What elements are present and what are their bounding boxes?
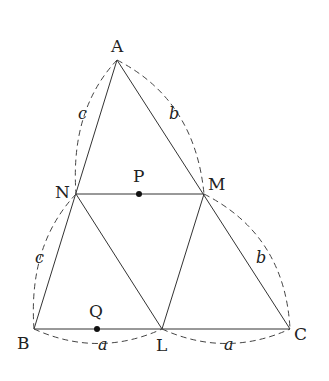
- label-Q: Q: [89, 303, 103, 320]
- segment-ML: [162, 194, 204, 329]
- triangle-diagram: A N M P B L C Q c c b b a a: [0, 0, 329, 381]
- side-label-b-lower: b: [256, 250, 266, 266]
- label-B: B: [17, 335, 30, 352]
- label-N: N: [55, 184, 70, 201]
- side-label-a-right: a: [224, 337, 234, 353]
- side-label-c-lower: c: [35, 250, 44, 266]
- diagram-canvas: [0, 0, 329, 381]
- label-A: A: [111, 38, 123, 55]
- label-C: C: [294, 326, 307, 343]
- side-label-a-left: a: [98, 337, 108, 353]
- point-P-dot: [136, 191, 142, 197]
- side-label-c-upper: c: [78, 106, 87, 122]
- side-label-b-upper: b: [169, 106, 179, 122]
- label-L: L: [156, 337, 167, 354]
- point-Q-dot: [94, 326, 100, 332]
- label-M: M: [208, 176, 225, 193]
- label-P: P: [133, 168, 144, 185]
